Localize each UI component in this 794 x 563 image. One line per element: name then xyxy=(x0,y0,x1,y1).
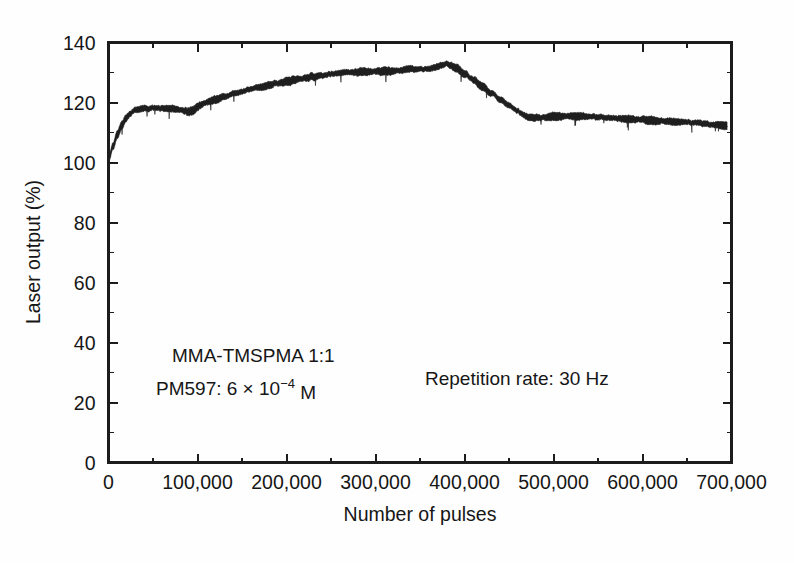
x-axis-tick-labels: 0100,000200,000300,000400,000500,000600,… xyxy=(103,471,767,493)
annotation-dye-suffix: M xyxy=(295,382,316,403)
x-tick-label: 500,000 xyxy=(518,471,589,493)
y-tick-label: 140 xyxy=(63,32,96,54)
y-tick-label: 60 xyxy=(74,272,96,294)
y-tick-label: 20 xyxy=(74,392,96,414)
laser-output-chart: 020406080100120140 0100,000200,000300,00… xyxy=(0,0,794,563)
x-tick-label: 0 xyxy=(103,471,114,493)
annotation-dye-exponent: −4 xyxy=(280,376,295,391)
y-tick-label: 120 xyxy=(63,92,96,114)
x-tick-label: 700,000 xyxy=(696,471,767,493)
annotation-repetition-rate: Repetition rate: 30 Hz xyxy=(425,368,609,389)
annotation-dye-prefix: PM597: 6 × 10 xyxy=(156,378,280,399)
y-tick-label: 80 xyxy=(74,212,96,234)
annotation-composition: MMA-TMSPMA 1:1 xyxy=(172,345,335,366)
y-tick-label: 100 xyxy=(63,152,96,174)
x-tick-label: 100,000 xyxy=(162,471,233,493)
x-axis-title: Number of pulses xyxy=(344,503,497,525)
y-axis-title: Laser output (%) xyxy=(22,180,44,324)
x-tick-label: 200,000 xyxy=(251,471,322,493)
figure-root: 020406080100120140 0100,000200,000300,00… xyxy=(0,0,794,563)
x-tick-label: 300,000 xyxy=(340,471,411,493)
y-tick-label: 0 xyxy=(85,452,96,474)
y-tick-label: 40 xyxy=(74,332,96,354)
x-tick-label: 400,000 xyxy=(429,471,500,493)
x-tick-label: 600,000 xyxy=(607,471,678,493)
